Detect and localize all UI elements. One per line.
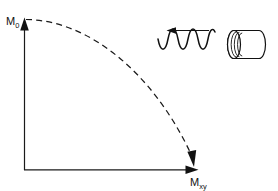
y-axis-label: M0 bbox=[6, 15, 19, 30]
x-axis-label-subscript: xy bbox=[199, 182, 207, 191]
x-axis-arrowhead-icon bbox=[186, 166, 199, 174]
trajectory-arrowhead-icon bbox=[187, 150, 196, 167]
x-axis-label-main: M bbox=[190, 176, 199, 188]
figure-canvas: M0 Mxy bbox=[0, 0, 278, 191]
magnetization-diagram: M0 Mxy bbox=[0, 0, 278, 191]
x-axis-group bbox=[24, 166, 199, 174]
magnetization-decay-curve bbox=[26, 20, 190, 153]
rf-pulse-group bbox=[158, 27, 215, 49]
y-axis-label-main: M bbox=[6, 15, 15, 27]
sample-tube-group bbox=[228, 31, 266, 59]
y-axis-label-subscript: 0 bbox=[15, 21, 19, 30]
rf-pulse-sine-wave-icon bbox=[158, 29, 215, 49]
x-axis-label: Mxy bbox=[190, 176, 207, 191]
y-axis-group bbox=[20, 18, 29, 171]
trajectory-group bbox=[26, 20, 196, 168]
